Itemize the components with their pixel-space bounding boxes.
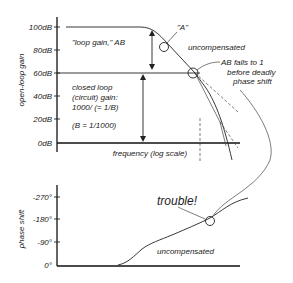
- phase-y-axis-label: phase shift: [17, 209, 26, 249]
- label-ab-falls-2: before deadly: [227, 68, 276, 77]
- label-trouble: trouble!: [157, 194, 198, 208]
- tick-label-0db: 0dB: [38, 139, 53, 148]
- gain-plot: 100dB 80dB 60dB 40dB 20dB 0dB open-loop …: [17, 17, 276, 162]
- label-a: "A": [177, 23, 189, 32]
- loop-gain-arrow: [149, 30, 155, 70]
- compensated-slope-dashed: [195, 73, 238, 112]
- tick-label-100db: 100dB: [29, 23, 53, 32]
- tick-label-60db: 60dB: [33, 69, 52, 78]
- closed-loop-gain-arrow: [140, 74, 146, 142]
- label-uncompensated-gain: uncompensated: [188, 43, 245, 52]
- tick-label-20db: 20dB: [32, 115, 52, 124]
- tick-label-0: 0°: [44, 261, 52, 270]
- gain-x-axis-label: frequency (log scale): [113, 149, 188, 158]
- tick-label-270: -270°: [33, 193, 53, 202]
- tick-label-80db: 80dB: [33, 46, 52, 55]
- connector-curve: [213, 90, 271, 216]
- tick-label-90: -90°: [37, 238, 53, 247]
- label-beta: (B = 1/1000): [72, 121, 117, 130]
- label-closed-loop-2: (circuit) gain:: [72, 93, 118, 102]
- tick-label-180: -180°: [33, 215, 53, 224]
- label-closed-loop-3: 1000/ (= 1/B): [72, 103, 119, 112]
- label-loop-gain: "loop gain," AB: [72, 38, 126, 47]
- tick-label-40db: 40dB: [33, 92, 52, 101]
- crossover-leader: [197, 62, 220, 70]
- label-ab-falls-1: AB falls to 1: [220, 58, 264, 67]
- point-a-leader: [167, 32, 177, 43]
- phase-plot: -270° -180° -90° 0° phase shift trouble!…: [17, 90, 271, 270]
- bode-diagram: 100dB 80dB 60dB 40dB 20dB 0dB open-loop …: [0, 0, 293, 283]
- gain-y-axis-label: open-loop gain: [17, 53, 26, 106]
- trouble-leader: [178, 207, 205, 219]
- label-ab-falls-3: phase shift: [232, 77, 272, 86]
- label-uncompensated-phase: uncompensated: [157, 247, 214, 256]
- point-a-circle: [160, 43, 169, 52]
- label-closed-loop-1: closed loop: [72, 83, 113, 92]
